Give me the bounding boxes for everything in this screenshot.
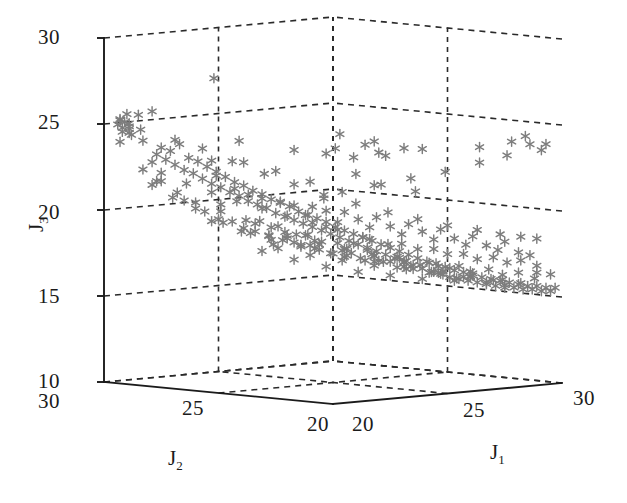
j1-axis-label-sub: 1 <box>498 452 505 467</box>
j3-axis-label-text: J <box>24 224 48 232</box>
j2-tick-30: 30 <box>38 389 60 414</box>
j2-tick-25: 25 <box>182 396 204 421</box>
j3-axis-ticks <box>97 38 104 382</box>
j3-axis-label-sub: 3 <box>36 217 51 224</box>
j2-tick-20: 20 <box>307 412 329 437</box>
scatter-plot-3d: 30 25 20 15 10 30 25 20 20 25 30 J3 J2 J… <box>0 0 627 503</box>
j1-axis-label-text: J <box>490 440 498 464</box>
j1-tick-30: 30 <box>573 386 595 411</box>
j1-axis-label: J1 <box>490 440 505 468</box>
data-points <box>114 74 559 296</box>
j3-axis-label: J3 <box>24 217 52 232</box>
j2-axis-label-text: J <box>168 446 176 470</box>
j1-tick-25: 25 <box>463 398 485 423</box>
j1-tick-20: 20 <box>352 412 374 437</box>
j3-tick-25: 25 <box>38 110 60 135</box>
j2-axis-label: J2 <box>168 446 183 474</box>
j3-tick-15: 15 <box>38 284 60 309</box>
j3-tick-30: 30 <box>38 25 60 50</box>
j2-axis-label-sub: 2 <box>176 458 183 473</box>
